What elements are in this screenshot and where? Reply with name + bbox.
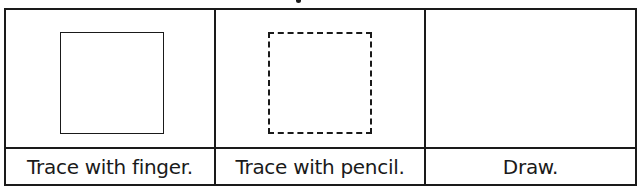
instruction-label: Trace with pencil. xyxy=(216,149,424,184)
instruction-label: Trace with finger. xyxy=(6,149,214,184)
column-draw: Draw. xyxy=(426,10,635,184)
instruction-label: Draw. xyxy=(426,149,635,184)
solid-square-shape xyxy=(60,32,164,134)
drawing-cell-trace-pencil[interactable] xyxy=(216,10,424,149)
column-trace-finger: Trace with finger. xyxy=(6,10,216,184)
dashed-square-shape xyxy=(268,32,372,134)
tracing-worksheet-table: Trace with finger. Trace with pencil. Dr… xyxy=(4,8,637,186)
cropped-text-fragment xyxy=(296,0,301,3)
drawing-cell-trace-finger[interactable] xyxy=(6,10,214,149)
column-trace-pencil: Trace with pencil. xyxy=(216,10,426,184)
drawing-cell-draw[interactable] xyxy=(426,10,635,149)
